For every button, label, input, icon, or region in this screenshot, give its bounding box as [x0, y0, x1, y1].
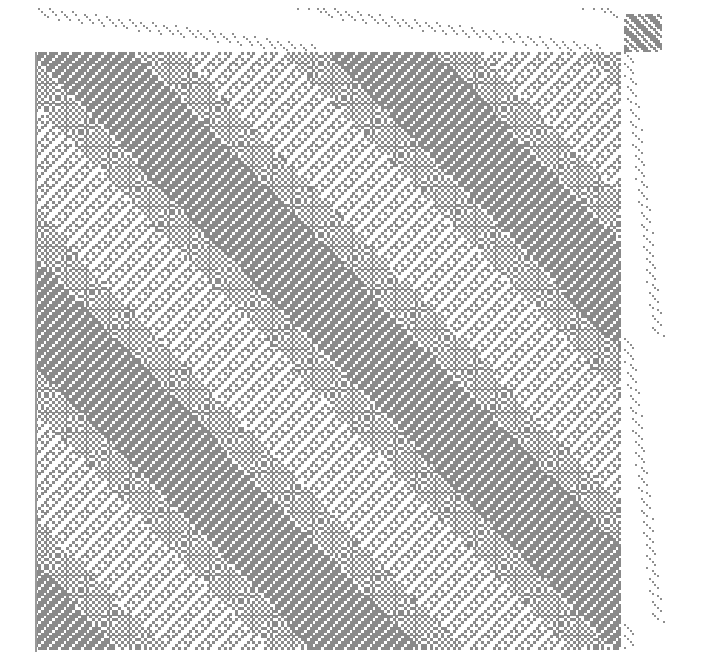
tieup-canvas [624, 14, 662, 52]
drawdown-grid: Drawdown [35, 52, 622, 652]
tieup-grid: Tie-up [624, 14, 662, 52]
drawdown-label: Drawdown [35, 652, 36, 653]
threading-grid: Threading [38, 8, 622, 52]
drawdown-canvas [35, 52, 622, 652]
treadling-label: Treadling [624, 652, 625, 653]
treadling-grid: Treadling [624, 52, 668, 652]
threading-canvas [38, 8, 622, 52]
treadling-canvas [624, 52, 668, 652]
